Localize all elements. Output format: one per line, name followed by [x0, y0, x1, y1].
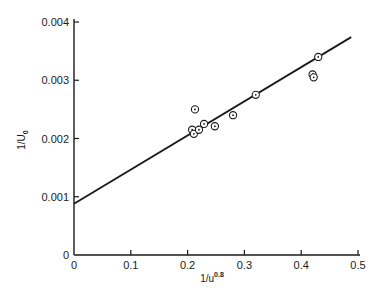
x-axis-label-superscript: 0.8	[214, 271, 224, 278]
x-tick-label: 0.3	[237, 259, 252, 271]
data-point-center-dot	[203, 123, 205, 125]
x-tick-label: 0	[71, 259, 77, 271]
y-tick-label: 0.003	[41, 74, 69, 86]
data-point-center-dot	[313, 76, 315, 78]
data-point-center-dot	[198, 129, 200, 131]
x-axis-label: 1/u0.8	[200, 271, 224, 284]
regression-line	[74, 37, 351, 204]
y-tick-label: 0.004	[41, 16, 69, 28]
data-point-center-dot	[232, 114, 234, 116]
x-axis-label-base: 1/u	[200, 273, 214, 284]
data-point-center-dot	[214, 125, 216, 127]
x-tick-label: 0.4	[294, 259, 309, 271]
y-axis-label-subscript: 0	[22, 130, 29, 134]
y-tick-label: 0	[63, 249, 69, 261]
x-tick-label: 0.1	[123, 259, 138, 271]
chart: 00.10.20.30.40.5 00.0010.0020.0030.004 1…	[0, 0, 384, 302]
data-point-center-dot	[255, 94, 257, 96]
x-axis-ticks: 00.10.20.30.40.5	[71, 250, 366, 271]
data-point-center-dot	[317, 56, 319, 58]
x-tick-label: 0.5	[350, 259, 365, 271]
x-tick-label: 0.2	[180, 259, 195, 271]
y-axis-label-base: 1/U	[16, 134, 27, 150]
fit-line	[74, 37, 351, 204]
data-point-center-dot	[193, 133, 195, 135]
y-tick-label: 0.002	[41, 133, 69, 145]
data-point-center-dot	[194, 108, 196, 110]
y-axis-label: 1/U0	[16, 130, 29, 150]
y-tick-label: 0.001	[41, 191, 69, 203]
